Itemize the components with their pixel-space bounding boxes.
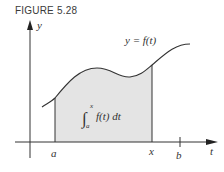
shaded-area (55, 65, 152, 142)
t-axis-label: t (210, 145, 214, 157)
y-axis-arrow-icon (27, 20, 33, 30)
tick-label-x: x (148, 145, 154, 157)
integral-diagram: y t a x b y = f(t) ∫ x a f(t) dt (0, 0, 224, 172)
integral-lower-limit: a (86, 122, 90, 130)
tick-label-b: b (176, 149, 182, 161)
y-axis-label: y (36, 19, 42, 31)
curve-label: y = f(t) (124, 34, 157, 47)
integrand: f(t) dt (96, 110, 122, 123)
tick-label-a: a (51, 147, 57, 159)
